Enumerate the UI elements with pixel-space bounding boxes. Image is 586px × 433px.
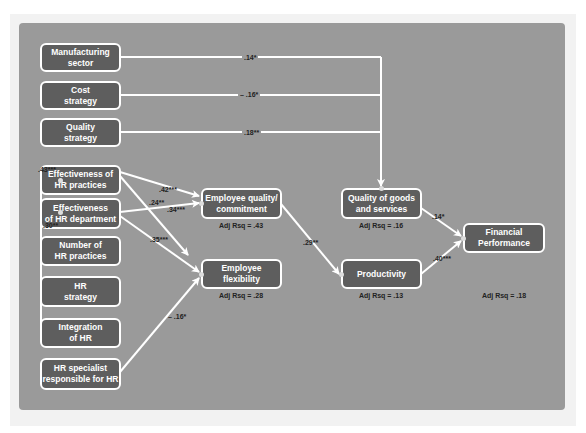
port-dot: [461, 236, 466, 241]
rsq-quality-goods: Adj Rsq = .16: [359, 222, 403, 229]
node-quality-strategy: Quality strategy: [40, 118, 121, 147]
coef-eff-practices-flexibility: .24**: [149, 199, 164, 207]
edge-eff-dept-flexibility: [120, 216, 199, 272]
node-quality-goods: Quality of goods and services: [341, 188, 422, 219]
port-dot: [339, 272, 344, 277]
node-hr-strategy: HR strategy: [40, 276, 121, 307]
coef-eff-department-quality: .34***: [167, 206, 185, 214]
coef-quality-productivity: .29**: [303, 239, 318, 247]
node-productivity: Productivity: [341, 259, 422, 289]
coef-quality-strategy: .18**: [242, 129, 261, 137]
coef-manufacturing: .14*: [242, 54, 258, 62]
node-employee-quality: Employee quality/ commitment: [201, 188, 282, 219]
coef-cost: – .16*: [238, 91, 260, 99]
node-cost-strategy: Cost strategy: [40, 81, 121, 110]
coef-eff-department-flexibility: .35***: [150, 236, 168, 244]
coef-eff-practices-quality: .42***: [159, 186, 177, 194]
rsq-productivity: Adj Rsq = .13: [359, 292, 403, 299]
rsq-financial-performance: Adj Rsq = .18: [482, 292, 526, 299]
rsq-employee-quality: Adj Rsq = .43: [219, 222, 263, 229]
port-dot: [58, 178, 63, 183]
node-financial-performance: Financial Performance: [463, 223, 545, 253]
port-dot: [379, 186, 384, 191]
port-dot: [199, 272, 204, 277]
rsq-employee-flexibility: Adj Rsq = .28: [219, 292, 263, 299]
coef-integration-eff-department: .30**: [43, 222, 58, 230]
port-dot: [199, 201, 204, 206]
node-number-hr-practices: Number of HR practices: [40, 236, 121, 266]
node-hr-specialist: HR specialist responsible for HR: [40, 358, 121, 390]
port-dot: [58, 210, 63, 215]
coef-productivity-financial: .40***: [433, 255, 451, 263]
node-manufacturing-sector: Manufacturing sector: [40, 43, 121, 72]
edge-specialist-flexibility: [120, 278, 199, 372]
coef-specialist-flexibility: – .16*: [168, 313, 186, 321]
node-employee-flexibility: Employee flexibility: [201, 259, 282, 289]
coef-integration-eff-practices: .43***: [38, 166, 56, 174]
coef-quality-goods-financial: .14*: [432, 213, 444, 221]
node-integration-hr: Integration of HR: [40, 318, 121, 348]
